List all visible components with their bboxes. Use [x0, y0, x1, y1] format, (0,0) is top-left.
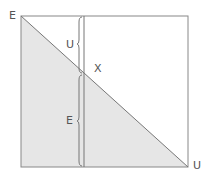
- corner-label-top-left: E: [9, 10, 16, 21]
- upper-brace: [77, 17, 82, 73]
- upper-segment-label: U: [66, 39, 74, 50]
- intersection-label: X: [94, 63, 102, 74]
- corner-label-bottom-right: U: [193, 160, 201, 171]
- lower-segment-label: E: [66, 115, 73, 126]
- diagram-canvas: [0, 0, 203, 186]
